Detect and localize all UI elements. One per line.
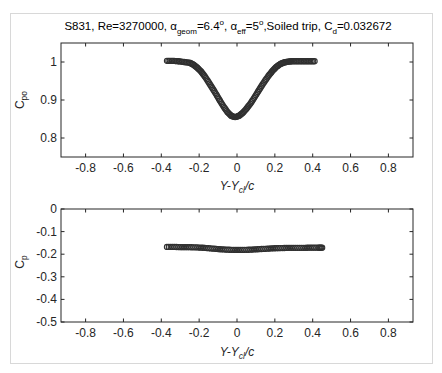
figure-title: S831, Re=3270000, αgeom=6.4o, αeff=5o,So…	[64, 18, 391, 36]
top-plot-box	[61, 43, 413, 157]
xtick-label: 0.6	[342, 161, 359, 175]
xtick-label: -0.6	[113, 161, 134, 175]
xtick-label: -0.2	[189, 326, 210, 340]
xtick-label: -0.4	[151, 326, 172, 340]
xtick-label: 0	[234, 161, 241, 175]
ytick-label: 1	[50, 55, 57, 69]
ytick-label: -0.5	[36, 315, 57, 329]
xtick-label: 0.4	[304, 326, 321, 340]
xtick-label: 0.2	[267, 161, 284, 175]
ytick-label: -0.2	[36, 247, 57, 261]
bottom-plot-ylabel: Cp	[13, 255, 29, 269]
bottom-plot-xlabel: Y-Ycl/c	[220, 345, 255, 361]
ytick-label: -0.3	[36, 270, 57, 284]
xtick-label: 0.2	[267, 326, 284, 340]
xtick-label: 0.8	[380, 161, 397, 175]
ytick-label: -0.4	[36, 292, 57, 306]
ytick-label: 0.8	[40, 131, 57, 145]
figure-canvas: S831, Re=3270000, αgeom=6.4o, αeff=5o,So…	[0, 0, 442, 373]
bottom-plot-box	[61, 209, 413, 322]
xtick-label: 0.4	[304, 161, 321, 175]
xtick-label: 0.8	[380, 326, 397, 340]
ytick-label: -0.1	[36, 225, 57, 239]
xtick-label: -0.8	[75, 161, 96, 175]
bottom-plot-axes: -0.8-0.6-0.4-0.200.20.40.60.8 0-0.1-0.2-…	[13, 202, 413, 361]
xtick-label: -0.6	[113, 326, 134, 340]
ytick-label: 0.9	[40, 93, 57, 107]
xtick-label: 0	[234, 326, 241, 340]
xtick-label: -0.8	[75, 326, 96, 340]
xtick-label: -0.4	[151, 161, 172, 175]
xtick-label: 0.6	[342, 326, 359, 340]
ytick-label: 0	[50, 202, 57, 216]
top-plot-xlabel: Y-Ycl/c	[220, 179, 255, 195]
top-plot-ylabel: Cpo	[13, 91, 29, 109]
xtick-label: -0.2	[189, 161, 210, 175]
top-plot-axes: -0.8-0.6-0.4-0.200.20.40.60.8 0.80.91 Y-…	[13, 43, 413, 195]
